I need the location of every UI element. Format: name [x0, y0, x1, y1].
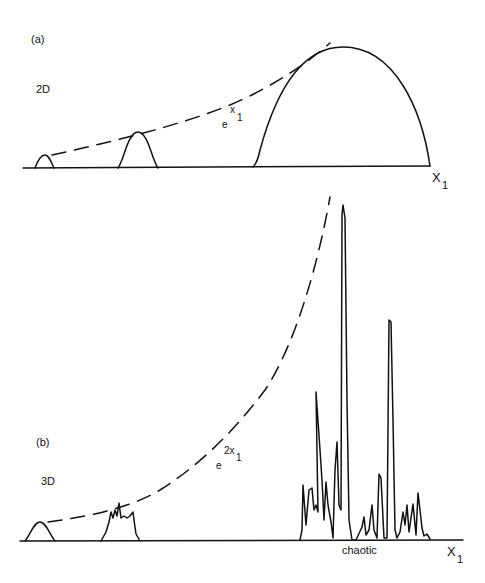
diagram-canvas	[0, 0, 485, 583]
panel-a-arch	[253, 47, 430, 167]
panel-b-chaotic-signal	[300, 205, 430, 540]
envelope-exponent: x	[230, 104, 235, 115]
axis-subscript: 1	[457, 553, 463, 565]
panel-b-axis	[20, 540, 463, 541]
panel-b-jagged-bump	[101, 503, 140, 541]
envelope-subscript: 1	[236, 452, 242, 463]
axis-subscript: 1	[442, 179, 448, 191]
panel-b-envelope-dashed	[48, 197, 330, 522]
envelope-exponent: 2x	[224, 445, 235, 456]
panel-a-axis	[23, 166, 430, 168]
panel-a-tag: (a)	[31, 33, 44, 45]
chaotic-annotation: chaotic	[342, 544, 377, 556]
panel-b-dimension-label: 3D	[41, 475, 55, 487]
envelope-base: e	[222, 119, 228, 130]
envelope-subscript: 1	[237, 112, 243, 123]
panel-b-gaussian	[25, 522, 55, 541]
panel-a-bump-1	[35, 155, 54, 168]
panel-a-dimension-label: 2D	[36, 83, 50, 95]
axis-symbol: X	[447, 544, 456, 559]
panel-b-tag: (b)	[36, 436, 49, 448]
axis-symbol: X	[432, 170, 441, 185]
envelope-base: e	[216, 460, 222, 471]
panel-a-envelope-dashed	[52, 43, 330, 155]
